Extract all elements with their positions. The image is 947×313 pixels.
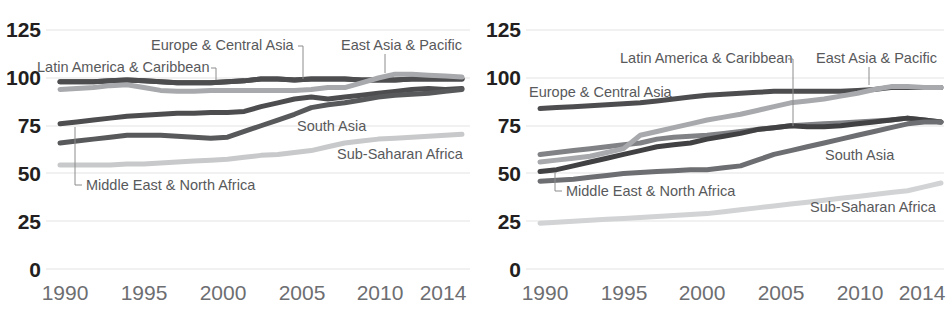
right-panel-svg: 125 100 75 50 25 0 1990 1995 2000 2005 2…: [473, 0, 947, 313]
series-label-middle-east-north-africa: Middle East & North Africa: [566, 183, 736, 199]
y-tick-label: 50: [18, 162, 41, 185]
x-tick-label: 1995: [121, 281, 168, 304]
leader-middle-east-north-africa: [75, 127, 82, 185]
left-series-annotations: Latin America & Caribbean Europe & Centr…: [37, 37, 464, 193]
series-label-europe-central-asia: Europe & Central Asia: [529, 84, 673, 100]
chart-panel-right: 125 100 75 50 25 0 1990 1995 2000 2005 2…: [473, 0, 946, 313]
left-panel-svg: 125 100 75 50 25 0 1990 1995 2000 2005 2…: [0, 0, 473, 313]
chart-panel-left: 125 100 75 50 25 0 1990 1995 2000 2005 2…: [0, 0, 473, 313]
x-tick-label: 2000: [200, 281, 247, 304]
x-tick-label: 2000: [679, 281, 726, 304]
y-tick-label: 50: [498, 162, 521, 185]
x-tick-label: 1995: [601, 281, 648, 304]
two-panel-line-chart-figure: 125 100 75 50 25 0 1990 1995 2000 2005 2…: [0, 0, 947, 313]
y-tick-label: 75: [18, 114, 42, 137]
series-label-east-asia-pacific: East Asia & Pacific: [341, 37, 462, 53]
series-label-south-asia: South Asia: [825, 147, 895, 163]
series-line-europe-central-asia: [60, 79, 462, 83]
left-y-tick-labels: 125 100 75 50 25 0: [6, 18, 41, 281]
x-tick-label: 1990: [522, 281, 569, 304]
series-label-middle-east-north-africa: Middle East & North Africa: [86, 177, 256, 193]
x-tick-label: 2005: [279, 281, 326, 304]
y-tick-label: 100: [6, 66, 41, 89]
x-tick-label: 2010: [357, 281, 404, 304]
x-tick-label: 1990: [42, 281, 89, 304]
y-tick-label: 25: [18, 210, 42, 233]
leader-europe-central-asia: [298, 46, 303, 79]
y-tick-label: 125: [6, 18, 41, 41]
series-label-sub-saharan-africa: Sub-Saharan Africa: [337, 146, 464, 162]
x-tick-label: 2014: [420, 281, 467, 304]
y-tick-label: 0: [29, 258, 41, 281]
series-label-latin-america-caribbean: Latin America & Caribbean: [620, 50, 793, 66]
y-tick-label: 75: [498, 114, 522, 137]
y-tick-label: 125: [486, 18, 521, 41]
series-label-europe-central-asia: Europe & Central Asia: [151, 37, 295, 53]
right-x-tick-labels: 1990 1995 2000 2005 2010 2014: [522, 281, 946, 304]
y-tick-label: 25: [498, 210, 522, 233]
left-x-tick-labels: 1990 1995 2000 2005 2010 2014: [42, 281, 467, 304]
series-label-east-asia-pacific: East Asia & Pacific: [816, 50, 937, 66]
y-tick-label: 0: [509, 258, 521, 281]
series-label-south-asia: South Asia: [297, 118, 367, 134]
x-tick-label: 2010: [837, 281, 884, 304]
series-label-latin-america-caribbean: Latin America & Caribbean: [37, 59, 210, 75]
series-label-sub-saharan-africa: Sub-Saharan Africa: [810, 199, 937, 215]
x-tick-label: 2005: [758, 281, 805, 304]
y-tick-label: 100: [486, 66, 521, 89]
x-tick-label: 2014: [899, 281, 946, 304]
right-y-tick-labels: 125 100 75 50 25 0: [486, 18, 521, 281]
